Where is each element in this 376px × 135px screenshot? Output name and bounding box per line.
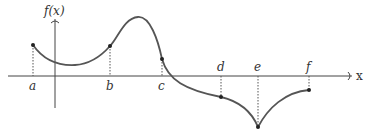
y-axis-label: f(x): [43, 4, 65, 18]
point-e: [256, 125, 260, 129]
label-b: b: [106, 79, 114, 93]
label-f: f: [305, 60, 313, 74]
point-b: [108, 44, 112, 48]
curve-segment-a-to-c: [33, 17, 162, 65]
point-d: [219, 95, 223, 99]
curve-segment-c-to-e: [162, 59, 258, 127]
point-a: [31, 43, 35, 47]
x-axis-label: x: [356, 69, 363, 83]
label-a: a: [29, 79, 36, 93]
point-c: [160, 57, 164, 61]
point-f: [307, 88, 311, 92]
label-e: e: [254, 60, 261, 74]
label-c: c: [158, 79, 165, 93]
curve-segment-e-to-f: [258, 90, 309, 127]
function-graph: x f(x) a b c d e f: [0, 0, 376, 135]
label-d: d: [217, 60, 225, 74]
